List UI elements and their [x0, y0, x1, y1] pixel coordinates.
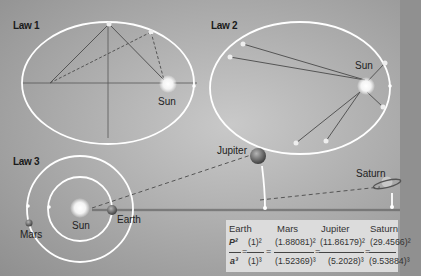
period-distance-table: Earth Mars Jupiter Saturn P² a³ = (1)² (…: [226, 220, 398, 272]
saturn-label: Saturn: [356, 168, 385, 179]
jupiter-label: Jupiter: [217, 145, 247, 156]
equals-sign: =: [365, 246, 370, 256]
mars-label: Mars: [20, 229, 42, 240]
sun-icon: [70, 198, 90, 218]
planet-marker: [228, 55, 233, 60]
col-header-earth: Earth: [229, 223, 252, 234]
sun-icon: [357, 77, 375, 95]
jupiter-dashed-line: [92, 152, 260, 208]
focus-dashed-line: [50, 32, 151, 83]
col-header-saturn: Saturn: [370, 223, 398, 234]
law1-diagram: [22, 22, 197, 145]
area-line: [296, 92, 360, 143]
law2-diagram: [210, 22, 392, 154]
planet-marker: [381, 105, 386, 110]
earth-icon: [107, 205, 117, 215]
equals-sign: =: [266, 246, 271, 256]
jupiter-icon: [250, 148, 266, 164]
earth-numerator: (1)²: [248, 237, 262, 247]
equals-sign: =: [242, 246, 247, 256]
mars-icon: [26, 220, 33, 227]
law2-sun-label: Sun: [355, 60, 373, 71]
saturn-denominator: (9.53884)³: [369, 256, 410, 266]
saturn-numerator: (29.4566)²: [370, 237, 411, 247]
sun-icon: [159, 75, 177, 93]
ratio-numerator: P²: [229, 237, 238, 247]
planet-marker: [192, 84, 196, 88]
kepler-laws-diagram: Law 1 Sun Law 2 Sun Law 3 Sun Earth Mars…: [0, 0, 421, 276]
earth-denominator: (1)³: [248, 256, 262, 266]
fraction-bar: [319, 252, 364, 253]
planet-marker: [107, 22, 112, 27]
planet-marker: [388, 84, 392, 88]
jupiter-drop-line: [262, 166, 265, 208]
law2-label: Law 2: [211, 20, 237, 31]
planet-marker: [324, 139, 329, 144]
planet-marker: [241, 42, 246, 47]
planet-marker: [294, 141, 299, 146]
fraction-bar: [247, 252, 264, 253]
area-line: [326, 92, 360, 141]
ratio-denominator: a³: [230, 256, 238, 266]
fraction-bar: [369, 252, 396, 253]
earth-label: Earth: [117, 214, 141, 225]
fraction-bar: [274, 252, 314, 253]
law1-label: Law 1: [13, 20, 39, 31]
col-header-jupiter: Jupiter: [321, 223, 350, 234]
planet-marker: [383, 61, 388, 66]
equals-sign: =: [315, 246, 320, 256]
law3-label: Law 3: [13, 156, 39, 167]
jupiter-numerator: (11.86179)²: [320, 237, 365, 247]
col-header-mars: Mars: [277, 223, 298, 234]
planet-marker: [149, 30, 154, 35]
fraction-bar: [229, 252, 241, 253]
jupiter-denominator: (5.2028)³: [328, 256, 364, 266]
saturn-dashed-line: [260, 187, 380, 200]
law1-sun-label: Sun: [158, 96, 176, 107]
mars-numerator: (1.88081)²: [275, 237, 316, 247]
mars-denominator: (1.52369)³: [275, 256, 316, 266]
law3-sun-label: Sun: [72, 220, 90, 231]
